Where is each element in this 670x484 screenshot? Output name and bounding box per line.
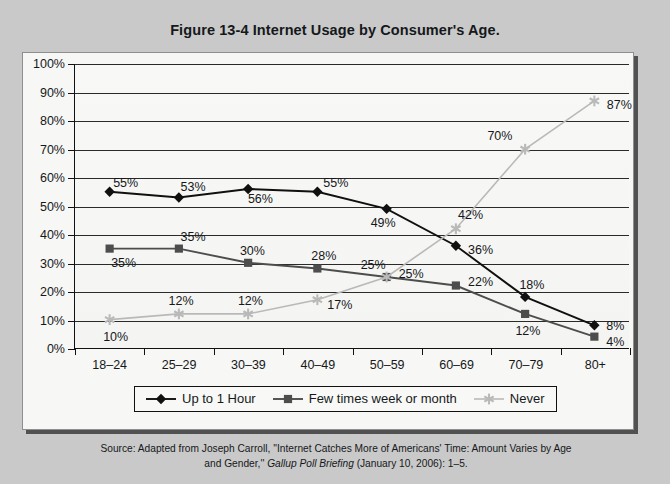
data-label: 35%	[181, 230, 206, 244]
legend-item[interactable]: Never	[474, 391, 545, 406]
square-icon	[273, 392, 303, 406]
data-label: 4%	[606, 335, 624, 349]
y-tick	[68, 264, 75, 265]
y-tick	[68, 321, 75, 322]
x-tick-label: 70–79	[509, 358, 544, 372]
source-line-2-post: (January 10, 2006): 1–5.	[354, 458, 468, 469]
y-tick	[68, 292, 75, 293]
data-label: 55%	[323, 176, 348, 190]
data-label: 18%	[519, 278, 544, 292]
data-label: 42%	[458, 208, 483, 222]
square-marker	[590, 333, 598, 341]
legend-item[interactable]: Up to 1 Hour	[146, 391, 256, 406]
y-tick	[68, 178, 75, 179]
legend-label: Up to 1 Hour	[182, 391, 256, 406]
x-tick	[75, 348, 76, 355]
square-marker	[313, 264, 321, 272]
diamond-icon	[146, 392, 176, 406]
x-tick	[630, 348, 631, 355]
data-label: 12%	[238, 294, 263, 308]
data-label: 25%	[399, 267, 424, 281]
x-tick-label: 80+	[585, 358, 606, 372]
legend-label: Few times week or month	[309, 391, 457, 406]
y-tick	[68, 121, 75, 122]
y-tick-label: 80%	[40, 114, 65, 128]
diamond-marker	[589, 320, 599, 330]
x-tick	[561, 348, 562, 355]
square-marker	[175, 245, 183, 253]
source-line-1: Source: Adapted from Joseph Carroll, ''I…	[100, 443, 571, 454]
x-tick-label: 40–49	[300, 358, 335, 372]
data-label: 55%	[113, 176, 138, 190]
square-marker	[284, 394, 292, 402]
chart-legend: Up to 1 HourFew times week or monthNever	[134, 386, 557, 412]
data-label: 70%	[487, 129, 512, 143]
y-tick-label: 10%	[40, 314, 65, 328]
source-citation: Source: Adapted from Joseph Carroll, ''I…	[30, 441, 642, 472]
square-marker	[521, 310, 529, 318]
x-tick	[353, 348, 354, 355]
source-line-2-pre: and Gender,''	[204, 458, 267, 469]
y-tick-label: 40%	[40, 228, 65, 242]
y-tick-label: 50%	[40, 200, 65, 214]
x-tick-label: 30–39	[231, 358, 266, 372]
data-label: 28%	[311, 249, 336, 263]
x-tick	[422, 348, 423, 355]
y-tick-label: 100%	[33, 57, 65, 71]
y-tick	[68, 150, 75, 151]
square-marker	[452, 281, 460, 289]
diamond-marker	[381, 204, 391, 214]
diamond-marker	[156, 393, 166, 403]
data-label: 36%	[468, 243, 493, 257]
data-label: 49%	[371, 216, 396, 230]
data-label: 8%	[606, 319, 624, 333]
x-tick	[283, 348, 284, 355]
page-title: Figure 13-4 Internet Usage by Consumer's…	[0, 22, 670, 38]
data-label: 25%	[361, 258, 386, 272]
y-tick-label: 20%	[40, 285, 65, 299]
star-icon	[474, 392, 504, 406]
x-tick-label: 25–29	[162, 358, 197, 372]
y-tick-label: 0%	[47, 342, 65, 356]
y-tick	[68, 349, 75, 350]
x-tick	[144, 348, 145, 355]
star-marker	[590, 96, 599, 107]
source-publication: Gallup Poll Briefing	[267, 458, 354, 469]
x-tick	[214, 348, 215, 355]
chart-panel: 0%10%20%30%40%50%60%70%80%90%100% 18–242…	[22, 52, 634, 430]
data-label: 53%	[181, 180, 206, 194]
y-tick	[68, 93, 75, 94]
data-label: 17%	[327, 298, 352, 312]
y-tick	[68, 235, 75, 236]
data-label: 35%	[111, 256, 136, 270]
y-tick-label: 90%	[40, 86, 65, 100]
data-label: 12%	[515, 324, 540, 338]
x-tick-label: 18–24	[92, 358, 127, 372]
data-label: 87%	[607, 98, 632, 112]
y-tick-label: 60%	[40, 171, 65, 185]
square-marker	[244, 259, 252, 267]
data-label: 12%	[169, 294, 194, 308]
legend-item[interactable]: Few times week or month	[273, 391, 457, 406]
data-label: 10%	[103, 330, 128, 344]
data-label: 22%	[468, 275, 493, 289]
x-tick	[491, 348, 492, 355]
plot-area: 0%10%20%30%40%50%60%70%80%90%100% 18–242…	[74, 64, 629, 349]
data-label: 30%	[240, 244, 265, 258]
y-tick	[68, 64, 75, 65]
x-tick-label: 50–59	[370, 358, 405, 372]
x-tick-label: 60–69	[439, 358, 474, 372]
square-marker	[106, 245, 114, 253]
legend-label: Never	[510, 391, 545, 406]
y-tick	[68, 207, 75, 208]
y-tick-label: 30%	[40, 257, 65, 271]
data-label: 56%	[248, 192, 273, 206]
y-tick-label: 70%	[40, 143, 65, 157]
diamond-marker	[312, 187, 322, 197]
